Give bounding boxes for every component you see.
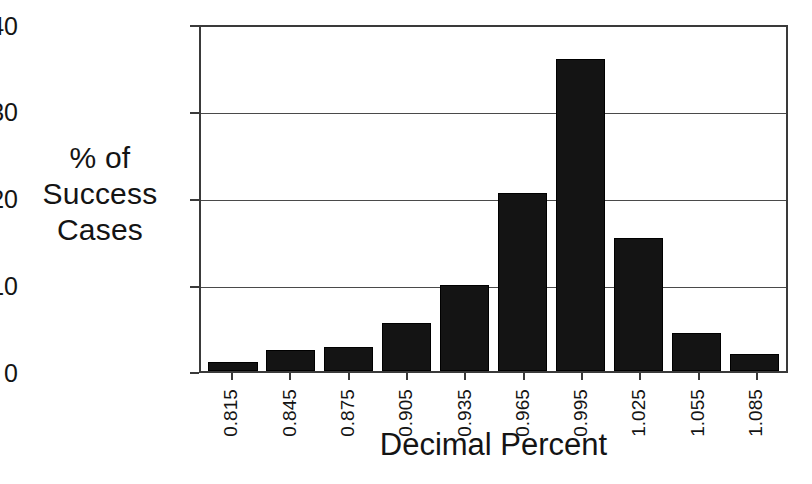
y-axis-title-line-1: % of xyxy=(14,140,186,176)
plot-area xyxy=(199,25,788,373)
x-tick-mark xyxy=(698,373,700,380)
x-tick-mark xyxy=(756,373,758,380)
y-tick-label-0: 0 xyxy=(0,361,18,386)
bar[interactable] xyxy=(672,333,721,371)
bar[interactable] xyxy=(556,59,605,371)
bar-series xyxy=(201,27,786,371)
y-tick-label-10: 10 xyxy=(0,274,18,299)
bar-slot xyxy=(204,27,262,371)
x-tick-slot: 0.815 xyxy=(202,376,260,434)
y-tick-mark-40 xyxy=(190,25,199,27)
y-tick-mark-30 xyxy=(190,112,199,114)
bar-slot xyxy=(262,27,320,371)
x-tick-slot: 0.845 xyxy=(260,376,318,434)
bar[interactable] xyxy=(498,193,547,371)
x-tick-mark xyxy=(406,373,408,380)
x-tick-slot: 0.875 xyxy=(319,376,377,434)
bar-slot xyxy=(667,27,725,371)
x-tick-slot: 1.085 xyxy=(727,376,785,434)
y-tick-label-20: 20 xyxy=(0,187,18,212)
y-tick-label-30: 30 xyxy=(0,100,18,125)
x-axis-ticks: 0.815 0.845 0.875 0.905 0.935 0.965 0.99… xyxy=(199,376,788,434)
x-tick-mark xyxy=(348,373,350,380)
bar-slot xyxy=(378,27,436,371)
bar-slot xyxy=(725,27,783,371)
histogram-figure: % of Success Cases 0 10 20 30 40 0.815 0… xyxy=(0,0,812,484)
bar-slot xyxy=(551,27,609,371)
y-tick-mark-0 xyxy=(190,372,199,374)
bar[interactable] xyxy=(324,347,373,371)
bar-slot xyxy=(609,27,667,371)
y-tick-mark-10 xyxy=(190,286,199,288)
y-axis-title-line-3: Cases xyxy=(14,212,186,248)
bar[interactable] xyxy=(208,362,257,371)
x-tick-mark xyxy=(231,373,233,380)
x-tick-slot: 1.055 xyxy=(668,376,726,434)
x-tick-slot: 0.995 xyxy=(552,376,610,434)
x-tick-mark xyxy=(464,373,466,380)
y-axis-title: % of Success Cases xyxy=(14,140,186,248)
x-tick-mark xyxy=(639,373,641,380)
bar-slot xyxy=(320,27,378,371)
x-tick-slot: 1.025 xyxy=(610,376,668,434)
x-tick-mark xyxy=(581,373,583,380)
bar[interactable] xyxy=(614,238,663,371)
x-tick-slot: 0.965 xyxy=(493,376,551,434)
y-axis-title-line-2: Success xyxy=(14,176,186,212)
x-axis-title: Decimal Percent xyxy=(199,428,788,462)
bar[interactable] xyxy=(440,285,489,371)
x-tick-slot: 0.935 xyxy=(435,376,493,434)
bar[interactable] xyxy=(266,350,315,371)
bar[interactable] xyxy=(382,323,431,371)
y-tick-mark-20 xyxy=(190,199,199,201)
x-tick-slot: 0.905 xyxy=(377,376,435,434)
bar[interactable] xyxy=(730,354,779,371)
x-tick-mark xyxy=(289,373,291,380)
bar-slot xyxy=(494,27,552,371)
x-tick-mark xyxy=(523,373,525,380)
bar-slot xyxy=(436,27,494,371)
y-tick-label-40: 40 xyxy=(0,14,18,39)
